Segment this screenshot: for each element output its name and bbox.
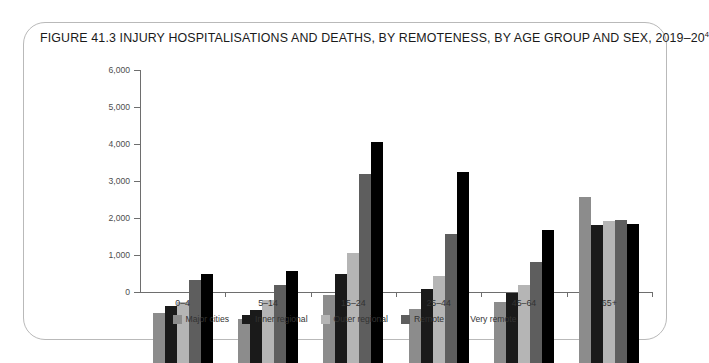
legend-item[interactable]: Outer regional [321,314,388,324]
legend-swatch-icon [457,315,466,324]
y-axis-tick [134,70,140,71]
x-axis-tick [567,292,568,297]
y-axis-tick-label: 1,000 [108,250,130,260]
y-axis-tick-label: 4,000 [108,139,130,149]
bar[interactable] [530,262,542,363]
x-axis-tick-label: 65+ [602,298,617,308]
x-axis-tick-label: 0–4 [175,298,190,308]
bar[interactable] [603,221,615,363]
y-axis-tick-label: 2,000 [108,213,130,223]
x-axis-tick-label: 5–14 [258,298,278,308]
bar[interactable] [238,319,250,363]
bar[interactable] [371,142,383,363]
bar[interactable] [177,302,189,363]
bar[interactable] [323,295,335,363]
bar-group [140,141,225,363]
y-axis-tick-label: 6,000 [108,65,130,75]
bar[interactable] [542,230,554,363]
x-axis-tick [396,292,397,297]
bar[interactable] [591,225,603,363]
legend-swatch-icon [173,315,182,324]
legend-label: Inner regional [255,314,308,324]
x-axis-tick-label: 15–24 [341,298,365,308]
legend-label: Outer regional [334,314,388,324]
legend-item[interactable]: Inner regional [242,314,308,324]
x-axis-tick-label: 45–64 [512,298,536,308]
bar-group [481,141,566,363]
bar[interactable] [494,302,506,363]
bar[interactable] [274,285,286,363]
bar-group [311,141,396,363]
figure-title-footnote-marker: 4 [705,30,709,39]
chart-legend: Major citiesInner regionalOuter regional… [0,314,689,324]
legend-label: Very remote [470,314,516,324]
bar-group [225,141,310,363]
x-axis-tick [225,292,226,297]
bar[interactable] [457,172,469,363]
bar[interactable] [347,253,359,363]
bar[interactable] [359,174,371,363]
legend-item[interactable]: Remote [401,314,444,324]
legend-swatch-icon [242,315,251,324]
legend-swatch-icon [401,315,410,324]
bar[interactable] [262,300,274,363]
x-axis-tick [652,292,653,297]
bar[interactable] [579,197,591,363]
legend-label: Major cities [186,314,229,324]
bar-group [396,141,481,363]
legend-label: Remote [414,314,444,324]
y-axis-tick-label: 3,000 [108,176,130,186]
x-axis-tick [481,292,482,297]
y-axis-tick [134,107,140,108]
legend-item[interactable]: Very remote [457,314,516,324]
y-axis-tick-label: 5,000 [108,102,130,112]
legend-swatch-icon [321,315,330,324]
legend-item[interactable]: Major cities [173,314,229,324]
x-axis-tick [311,292,312,297]
bar-group [567,141,652,363]
bar[interactable] [615,220,627,363]
bar[interactable] [627,224,639,363]
y-axis-tick-label: 0 [125,287,130,297]
x-axis-tick-label: 25–44 [426,298,450,308]
